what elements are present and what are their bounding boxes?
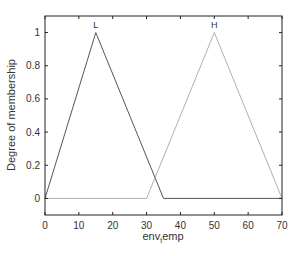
x-tick-label: 0 — [42, 220, 48, 231]
axes-frame — [45, 16, 282, 215]
series-h-line — [45, 33, 282, 199]
y-tick-label: 0.6 — [26, 93, 40, 104]
y-tick-label: 0.8 — [26, 60, 40, 71]
peak-label-h: H — [211, 20, 218, 30]
x-tick-label: 10 — [73, 220, 85, 231]
membership-chart: 010203040506070 00.20.40.60.81 LH envtem… — [0, 0, 301, 256]
y-axis-label: Degree of membership — [5, 59, 17, 171]
peak-label-l: L — [93, 20, 98, 30]
plot-area — [45, 33, 282, 199]
peak-labels: LH — [93, 20, 217, 30]
y-axis-ticks: 00.20.40.60.81 — [26, 27, 282, 204]
y-tick-label: 0 — [34, 193, 40, 204]
y-tick-label: 1 — [34, 27, 40, 38]
x-tick-label: 70 — [276, 220, 288, 231]
x-axis-label: envtemp — [142, 230, 183, 244]
x-tick-label: 60 — [243, 220, 255, 231]
y-tick-label: 0.4 — [26, 127, 40, 138]
x-tick-label: 50 — [209, 220, 221, 231]
x-tick-label: 20 — [107, 220, 119, 231]
y-tick-label: 0.2 — [26, 160, 40, 171]
series-l-line — [45, 33, 282, 199]
